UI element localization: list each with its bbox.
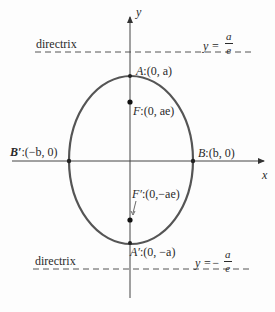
upper-frac-denominator: e <box>225 44 233 56</box>
point-F <box>127 99 132 104</box>
label-A-coords: :(0, a) <box>143 64 172 78</box>
label-F-prime-coords: :(0,−ae) <box>142 187 180 201</box>
point-B-prime <box>67 159 71 163</box>
upper-directrix-fraction: a e <box>225 31 233 56</box>
lower-directrix-fraction: a e <box>224 249 232 274</box>
ellipse-diagram: y x directrix y = a e directrix y =− a e… <box>0 0 275 312</box>
upper-frac-numerator: a <box>225 31 233 44</box>
label-F-coords: :(0, ae) <box>140 104 174 118</box>
label-B-prime-name: B′ <box>10 145 21 159</box>
label-A-prime: A′:(0, −a) <box>130 246 175 258</box>
y-axis-label: y <box>136 6 141 18</box>
upper-directrix-label: directrix <box>36 38 77 50</box>
label-A-prime-coords: :(0, −a) <box>140 245 175 259</box>
label-B-coords: :(b, 0) <box>205 146 234 160</box>
label-A-prime-name: A′ <box>130 245 140 259</box>
label-F: F:(0, ae) <box>133 105 174 117</box>
x-axis-label: x <box>262 169 267 181</box>
label-F-prime-name: F′ <box>132 187 142 201</box>
label-A: A:(0, a) <box>136 65 172 77</box>
lower-frac-denominator: e <box>224 262 232 274</box>
lower-directrix-eq-prefix: y =− <box>195 257 220 269</box>
point-F-prime <box>127 217 132 222</box>
lower-directrix-label: directrix <box>35 255 76 267</box>
upper-directrix-eq-prefix: y = <box>203 40 219 52</box>
lower-frac-numerator: a <box>224 249 232 262</box>
label-F-prime: F′:(0,−ae) <box>132 188 180 200</box>
label-B-prime-coords: :(−b, 0) <box>21 145 57 159</box>
point-A <box>128 74 132 78</box>
point-B <box>191 159 195 163</box>
label-B-prime: B′:(−b, 0) <box>10 146 57 158</box>
label-B: B:(b, 0) <box>198 147 235 159</box>
